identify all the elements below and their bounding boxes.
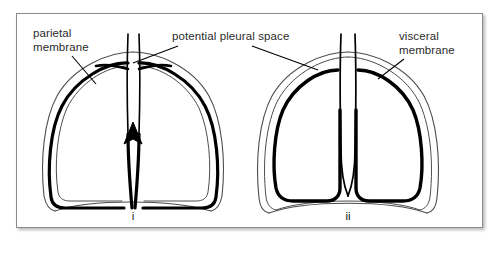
panel-i-drawing bbox=[43, 34, 224, 211]
panel-i-trachea-right-wall bbox=[139, 34, 140, 134]
panel-caption-i: i bbox=[124, 210, 142, 222]
panel-ii-drawing bbox=[258, 34, 439, 213]
panel-i-lung-thick-left bbox=[49, 63, 128, 208]
panel-i-lung-thin-left bbox=[56, 66, 126, 201]
panel-ii-lung-thick-right bbox=[356, 70, 422, 201]
panel-ii-mediastinum-right bbox=[348, 150, 355, 196]
label-parietal-line2: membrane bbox=[33, 41, 89, 55]
label-pleural-line1: potential pleural space bbox=[172, 30, 289, 44]
panel-ii-trachea-right-wall bbox=[355, 34, 356, 150]
leader-pleural-right bbox=[252, 46, 318, 70]
panel-ii-chest-wall-outer-left bbox=[258, 52, 348, 213]
panel-i-mediastinum-left bbox=[128, 134, 132, 208]
panel-ii-chest-wall-outer-right bbox=[348, 52, 438, 213]
label-visceral-membrane: visceral membrane bbox=[399, 30, 455, 57]
panel-ii-trachea-left-wall bbox=[340, 34, 341, 150]
figure-root: parietal membrane potential pleural spac… bbox=[0, 0, 501, 256]
panel-i-trachea-left-wall bbox=[127, 34, 128, 134]
panel-i-mediastinum-right bbox=[135, 134, 139, 208]
label-potential-pleural-space: potential pleural space bbox=[172, 30, 289, 44]
label-parietal-line1: parietal bbox=[33, 27, 89, 41]
leader-lines bbox=[72, 46, 404, 84]
panel-i-lung-thick-right bbox=[139, 63, 218, 208]
panel-ii-lung-thick-left bbox=[274, 70, 340, 201]
label-visceral-line2: membrane bbox=[399, 44, 455, 58]
panel-caption-ii: ii bbox=[339, 210, 357, 222]
panel-ii-mediastinum-left bbox=[341, 150, 348, 196]
label-visceral-line1: visceral bbox=[399, 30, 455, 44]
panel-i-lung-thin-right bbox=[140, 66, 210, 201]
leader-visceral bbox=[378, 59, 404, 79]
label-parietal-membrane: parietal membrane bbox=[33, 27, 89, 54]
